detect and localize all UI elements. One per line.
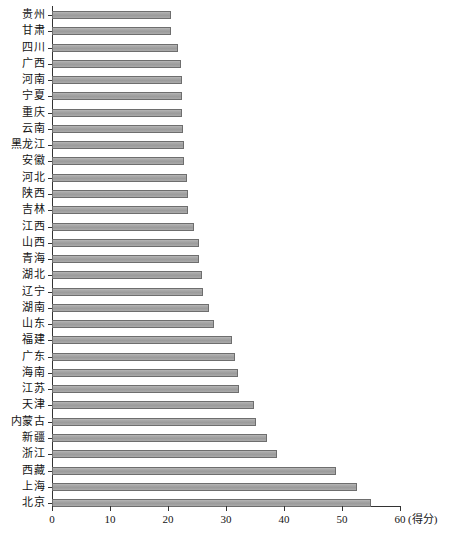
bar xyxy=(52,141,184,149)
bar xyxy=(52,369,238,377)
bar-row: 陕西 xyxy=(52,187,400,203)
y-axis-label: 福建 xyxy=(22,332,45,346)
y-axis-label: 湖北 xyxy=(22,267,45,281)
bar-row: 江苏 xyxy=(52,382,400,398)
x-axis-unit-label: (得分) xyxy=(408,513,437,526)
bar-row: 福建 xyxy=(52,333,400,349)
bar-row: 青海 xyxy=(52,252,400,268)
bar xyxy=(52,206,188,214)
x-axis-tick xyxy=(400,506,401,511)
y-axis-label: 甘肃 xyxy=(22,23,45,37)
bar-row: 吉林 xyxy=(52,203,400,219)
bar-row: 贵州 xyxy=(52,8,400,24)
x-axis-tick xyxy=(226,506,227,511)
bar xyxy=(52,336,232,344)
bar-row: 重庆 xyxy=(52,106,400,122)
bar xyxy=(52,434,267,442)
bar xyxy=(52,223,194,231)
y-axis-label: 海南 xyxy=(22,365,45,379)
plot-area: 贵州甘肃四川广西河南宁夏重庆云南黑龙江安徽河北陕西吉林江西山西青海湖北辽宁湖南山… xyxy=(52,8,400,504)
y-axis-label: 山西 xyxy=(22,235,45,249)
bar xyxy=(52,174,187,182)
bar xyxy=(52,304,209,312)
y-axis-label: 江苏 xyxy=(22,381,45,395)
y-axis-label: 浙江 xyxy=(22,446,45,460)
bar-row: 江西 xyxy=(52,220,400,236)
x-axis-tick-label: 40 xyxy=(279,513,290,526)
y-axis-label: 广西 xyxy=(22,56,45,70)
y-axis-label: 北京 xyxy=(22,495,45,509)
x-axis-tick xyxy=(168,506,169,511)
bar xyxy=(52,11,171,19)
y-axis-label: 重庆 xyxy=(22,105,45,119)
x-axis-tick xyxy=(284,506,285,511)
bar-row: 广东 xyxy=(52,350,400,366)
bar-row: 黑龙江 xyxy=(52,138,400,154)
bar-row: 浙江 xyxy=(52,447,400,463)
x-axis-tick-label: 50 xyxy=(337,513,348,526)
bar-row: 山东 xyxy=(52,317,400,333)
y-axis-label: 山东 xyxy=(22,316,45,330)
y-axis-label: 陕西 xyxy=(22,186,45,200)
bar-row: 云南 xyxy=(52,122,400,138)
y-axis-label: 吉林 xyxy=(22,202,45,216)
y-axis-label: 贵州 xyxy=(22,7,45,21)
bar xyxy=(52,320,214,328)
bar-row: 西藏 xyxy=(52,464,400,480)
bar-rows: 贵州甘肃四川广西河南宁夏重庆云南黑龙江安徽河北陕西吉林江西山西青海湖北辽宁湖南山… xyxy=(52,8,400,504)
bar-row: 湖南 xyxy=(52,301,400,317)
y-axis-label: 西藏 xyxy=(22,463,45,477)
bar xyxy=(52,271,202,279)
bar-row: 甘肃 xyxy=(52,24,400,40)
y-axis-label: 新疆 xyxy=(22,430,45,444)
y-axis-label: 安徽 xyxy=(22,153,45,167)
y-axis-label: 广东 xyxy=(22,349,45,363)
bar xyxy=(52,27,171,35)
bar-row: 广西 xyxy=(52,57,400,73)
x-axis-tick xyxy=(110,506,111,511)
bar-row: 宁夏 xyxy=(52,89,400,105)
bar-chart: 贵州甘肃四川广西河南宁夏重庆云南黑龙江安徽河北陕西吉林江西山西青海湖北辽宁湖南山… xyxy=(0,0,461,546)
bar xyxy=(52,401,254,409)
y-axis-label: 青海 xyxy=(22,251,45,265)
x-axis-tick xyxy=(342,506,343,511)
bar-row: 四川 xyxy=(52,41,400,57)
x-axis-tick-label: 30 xyxy=(221,513,232,526)
bar xyxy=(52,450,277,458)
x-axis-tick xyxy=(52,506,53,511)
y-axis-label: 辽宁 xyxy=(22,284,45,298)
bar xyxy=(52,92,182,100)
bar-row: 天津 xyxy=(52,398,400,414)
bar xyxy=(52,467,336,475)
bar-row: 内蒙古 xyxy=(52,415,400,431)
bar xyxy=(52,418,256,426)
bar-row: 海南 xyxy=(52,366,400,382)
bar xyxy=(52,44,178,52)
x-axis-ticks: 0102030405060 xyxy=(52,506,401,536)
bar xyxy=(52,483,357,491)
y-axis-label: 河南 xyxy=(22,72,45,86)
bar xyxy=(52,190,188,198)
y-axis-label: 内蒙古 xyxy=(11,414,46,428)
bar xyxy=(52,353,235,361)
bar-row: 河北 xyxy=(52,171,400,187)
y-axis-label: 四川 xyxy=(22,40,45,54)
x-axis-tick-label: 20 xyxy=(163,513,174,526)
bar xyxy=(52,239,199,247)
x-axis-tick-label: 0 xyxy=(49,513,55,526)
bar xyxy=(52,288,203,296)
bar-row: 上海 xyxy=(52,480,400,496)
bar-row: 湖北 xyxy=(52,268,400,284)
y-axis-label: 云南 xyxy=(22,121,45,135)
bar-row: 山西 xyxy=(52,236,400,252)
y-axis-label: 天津 xyxy=(22,397,45,411)
bar-row: 新疆 xyxy=(52,431,400,447)
y-axis-label: 黑龙江 xyxy=(11,137,46,151)
y-axis-label: 河北 xyxy=(22,170,45,184)
y-axis-label: 宁夏 xyxy=(22,88,45,102)
x-axis-tick-label: 60 xyxy=(395,513,406,526)
x-axis-tick-label: 10 xyxy=(105,513,116,526)
bar xyxy=(52,255,199,263)
bar-row: 辽宁 xyxy=(52,285,400,301)
bar xyxy=(52,109,182,117)
